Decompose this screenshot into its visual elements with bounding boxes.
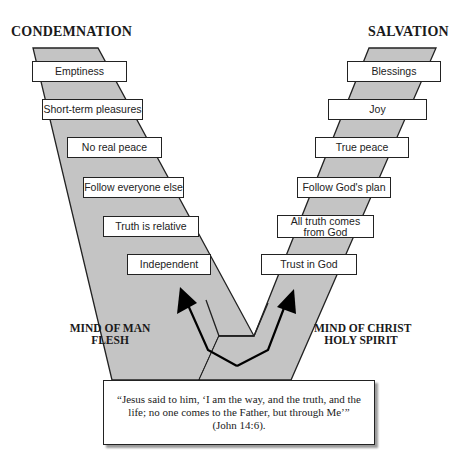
left-step-independent: Independent	[127, 254, 211, 275]
quote-line-1: “Jesus said to him, ‘I am the way, and t…	[117, 393, 361, 406]
left-step-short-term-pleasures: Short-term pleasures	[42, 99, 143, 120]
mind-of-christ-label: MIND OF CHRIST HOLY SPIRIT	[314, 322, 408, 346]
mind-of-man-line1: MIND OF MAN	[68, 322, 152, 334]
left-step-truth-is-relative: Truth is relative	[103, 216, 199, 237]
left-step-no-real-peace: No real peace	[67, 137, 162, 158]
mind-of-man-label: MIND OF MAN FLESH	[68, 322, 152, 346]
left-step-emptiness: Emptiness	[32, 61, 127, 82]
mind-of-christ-line1: MIND OF CHRIST	[314, 322, 408, 334]
right-step-blessings: Blessings	[347, 61, 441, 82]
mind-of-christ-line2: HOLY SPIRIT	[314, 334, 408, 346]
two-paths-diagram: CONDEMNATION SALVATION Emptiness Short-t…	[0, 0, 464, 462]
right-step-joy: Joy	[328, 99, 427, 120]
salvation-heading: SALVATION	[368, 24, 449, 40]
right-step-follow-gods-plan: Follow God's plan	[297, 177, 391, 198]
mind-of-man-line2: FLESH	[68, 334, 152, 346]
quote-citation: (John 14:6).	[212, 419, 265, 432]
quote-line-2: life; no one comes to the Father, but th…	[128, 406, 349, 419]
right-step-all-truth-from-god: All truth comes from God	[277, 215, 374, 238]
condemnation-heading: CONDEMNATION	[11, 24, 132, 40]
right-step-true-peace: True peace	[315, 137, 409, 158]
scripture-quote-box: “Jesus said to him, ‘I am the way, and t…	[103, 380, 375, 445]
left-step-follow-everyone-else: Follow everyone else	[83, 177, 184, 198]
right-step-trust-in-god: Trust in God	[261, 254, 357, 275]
